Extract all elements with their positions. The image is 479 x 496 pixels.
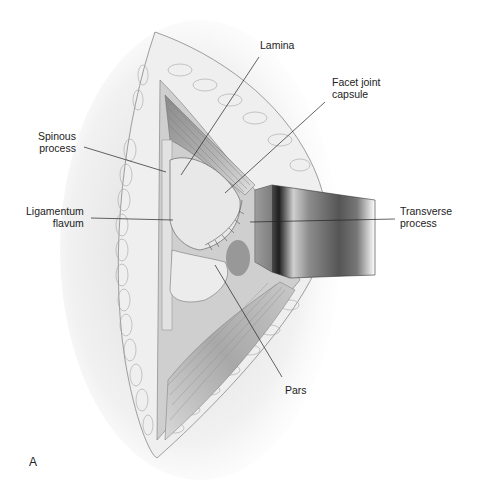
surgical-illustration bbox=[0, 0, 479, 496]
label-facet-joint-capsule: Facet joint capsule bbox=[332, 77, 380, 100]
label-ligamentum-flavum: Ligamentum flavum bbox=[26, 206, 84, 229]
label-transverse-process: Transverse process bbox=[400, 206, 452, 229]
label-lamina: Lamina bbox=[260, 40, 294, 52]
label-pars: Pars bbox=[285, 385, 307, 397]
label-spinous-process: Spinous process bbox=[38, 131, 76, 154]
panel-label: A bbox=[29, 457, 37, 469]
retractor-blade bbox=[255, 185, 375, 278]
